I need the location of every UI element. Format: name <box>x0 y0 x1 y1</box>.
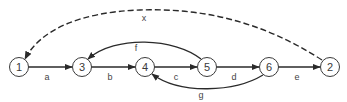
edge-label-d: d <box>231 72 236 82</box>
edge-f <box>88 42 201 59</box>
node-2-label: 2 <box>327 61 333 73</box>
node-3: 3 <box>73 58 92 77</box>
edge-label-g: g <box>198 90 203 100</box>
edge-label-f: f <box>135 43 138 53</box>
edge-label-c: c <box>174 72 179 82</box>
directed-graph-diagram: x f g a b c d e 1 3 4 5 6 2 <box>0 0 347 102</box>
edge-label-a: a <box>44 72 49 82</box>
edge-label-e: e <box>294 72 299 82</box>
node-1-label: 1 <box>16 61 22 73</box>
edge-x <box>25 10 322 60</box>
edge-label-b: b <box>107 72 112 82</box>
node-6-label: 6 <box>266 61 272 73</box>
node-3-label: 3 <box>79 61 85 73</box>
node-5-label: 5 <box>204 61 210 73</box>
edge-label-x: x <box>142 13 147 23</box>
node-6: 6 <box>260 58 279 77</box>
node-5: 5 <box>198 58 217 77</box>
node-1: 1 <box>10 58 29 77</box>
node-4: 4 <box>136 58 155 77</box>
node-4-label: 4 <box>142 61 148 73</box>
node-2: 2 <box>321 58 340 77</box>
